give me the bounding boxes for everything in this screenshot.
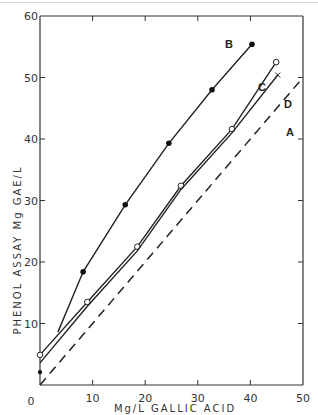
- x-tick-label: 40: [243, 392, 257, 405]
- x-axis-title: Mg/L GALLIC ACID: [114, 403, 236, 414]
- series-c: [37, 59, 279, 357]
- series-a: [40, 78, 303, 386]
- curve-label-a: A: [286, 126, 294, 138]
- curve-label-d: D: [284, 98, 292, 110]
- x-tick-label: 10: [86, 392, 100, 405]
- y-tick-label: 40: [24, 133, 38, 146]
- y-tick-label: 20: [24, 256, 38, 269]
- axis-ticks: [40, 16, 303, 385]
- y-tick-label: 30: [24, 195, 38, 208]
- series-d: [40, 73, 280, 363]
- y-tick-label: 60: [24, 10, 38, 23]
- phenol-assay-chart: 1020304050102030405060 0 PHENOL ASSAY Mg…: [0, 0, 318, 415]
- series-b: [58, 41, 255, 332]
- y-tick-label: 10: [24, 318, 38, 331]
- y-tick-label: 50: [24, 72, 38, 85]
- baseline-point: [38, 370, 42, 374]
- plot-frame: [40, 16, 303, 385]
- tick-labels: 1020304050102030405060: [24, 10, 310, 405]
- curve-label-b: B: [225, 38, 233, 50]
- data-series: [37, 41, 303, 385]
- curve-label-c: C: [258, 81, 266, 93]
- y-axis-title: PHENOL ASSAY Mg GAE/L: [12, 165, 23, 334]
- x-tick-label: 50: [296, 392, 310, 405]
- origin-label: 0: [28, 395, 35, 408]
